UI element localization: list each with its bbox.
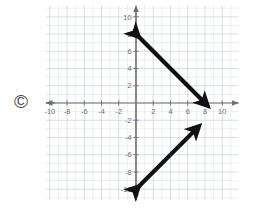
x-tick-label: 4 [168, 107, 172, 116]
y-tick-label: -2 [125, 116, 132, 125]
x-tick-label: 6 [186, 107, 190, 116]
x-tick-label: -8 [64, 107, 71, 116]
y-tick-label: -4 [125, 133, 132, 142]
y-tick-label: -10 [121, 185, 132, 194]
x-axis-tick-labels: -10-8-6-4-2246810 [44, 107, 226, 116]
x-tick-label: -10 [44, 107, 55, 116]
axes [46, 6, 239, 201]
y-tick-label: 2 [127, 81, 131, 90]
x-tick-label: -2 [115, 107, 122, 116]
x-tick-label: -6 [81, 107, 88, 116]
plot-line [136, 129, 196, 189]
x-tick-label: 10 [218, 107, 226, 116]
y-tick-label: 8 [127, 30, 131, 39]
x-tick-label: 8 [203, 107, 207, 116]
y-tick-label: 4 [127, 64, 131, 73]
y-tick-label: -6 [125, 150, 132, 159]
y-tick-label: -8 [125, 168, 132, 177]
y-tick-label: 6 [127, 47, 131, 56]
y-tick-label: 10 [123, 13, 131, 22]
coordinate-plane-graph: -10-8-6-4-2246810 108642-2-4-6-8-10 [0, 0, 258, 218]
x-tick-label: -4 [98, 107, 105, 116]
x-tick-label: 2 [151, 107, 155, 116]
